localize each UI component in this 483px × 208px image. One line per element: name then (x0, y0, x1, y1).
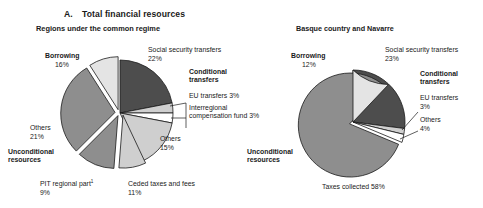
left-label-borrowing-pct: 16% (55, 61, 69, 69)
left-label-others-unconditional-pct: 21% (30, 133, 44, 141)
left-label-pit-pct: 9% (40, 189, 50, 197)
left-label-interregional-fund: Interregional compensation fund 3% (189, 104, 259, 119)
left-label-pit-name: PIT regional part (40, 180, 91, 187)
right-label-others-name: Others (420, 116, 441, 124)
right-label-others-pct: 4% (420, 125, 430, 133)
left-label-others-conditional-name: Others (160, 135, 181, 143)
right-chart-subtitle: Basque country and Navarre (296, 25, 394, 33)
left-label-eu-transfers: EU transfers 3% (189, 92, 239, 100)
right-label-social-security: Social security transfers (385, 46, 458, 54)
left-heading-conditional-transfers: Conditional transfers (189, 68, 227, 83)
figure-title: Total financial resources (82, 10, 185, 20)
right-pie-chart (298, 70, 418, 177)
figure-panel-a: A. Total financial resources Regions und… (0, 0, 483, 208)
left-label-social-security-pct: 22% (148, 55, 162, 63)
right-heading-unconditional-resources: Unconditional resources (247, 148, 293, 163)
left-label-borrowing-name: Borrowing (45, 52, 79, 60)
right-label-borrowing-name: Borrowing (291, 52, 325, 60)
right-label-eu-transfers-pct: 3% (420, 103, 430, 111)
right-heading-conditional-transfers: Conditional transfers (420, 70, 458, 85)
left-label-others-conditional-pct: 15% (160, 144, 174, 152)
left-label-ceded-taxes-pct: 11% (128, 189, 141, 197)
right-label-social-security-pct: 23% (385, 55, 399, 63)
left-label-ceded-taxes: Ceded taxes and fees (128, 180, 195, 188)
right-label-eu-transfers: EU transfers (420, 94, 458, 102)
left-label-pit-footnote-marker: 1 (91, 179, 94, 184)
right-label-borrowing-pct: 12% (302, 61, 316, 69)
right-label-taxes-collected: Taxes collected 58% (322, 183, 385, 191)
panel-letter: A. (64, 10, 73, 20)
left-heading-unconditional-resources: Unconditional resources (8, 148, 54, 163)
left-label-social-security: Social security transfers (148, 46, 221, 54)
left-label-pit-regional-part: PIT regional part1 (40, 180, 93, 188)
left-label-others-unconditional-name: Others (30, 124, 51, 132)
left-chart-subtitle: Regions under the common regime (36, 25, 160, 33)
